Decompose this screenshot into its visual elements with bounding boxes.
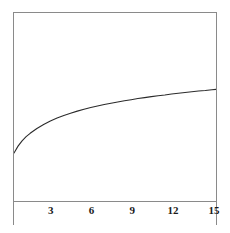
x-axis-tick-band: 3691215 [14, 201, 216, 225]
x-tick-label-12: 12 [168, 204, 179, 217]
plot-frame: 3691215 [13, 12, 217, 225]
figure: 3691215 [0, 0, 230, 233]
x-tick-label-3: 3 [48, 204, 54, 217]
plot-area [14, 13, 216, 201]
x-tick-label-9: 9 [130, 204, 136, 217]
x-tick-label-6: 6 [89, 204, 95, 217]
x-tick-label-15: 15 [208, 204, 219, 217]
curve-line [14, 13, 216, 201]
